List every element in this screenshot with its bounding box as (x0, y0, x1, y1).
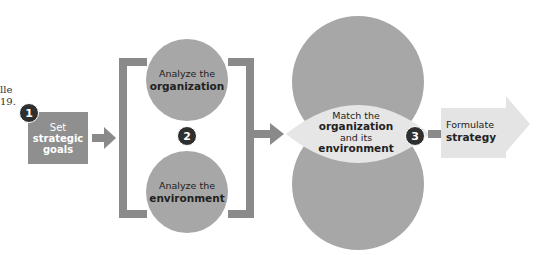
analyze-organization-circle: Analyze the organization (146, 39, 228, 121)
step1-line1: Set (28, 122, 88, 133)
step-set-goals: Set strategic goals (28, 112, 88, 164)
match-line2: organization (319, 120, 394, 132)
arrow-icon (92, 127, 116, 149)
step1-line2: strategic (28, 133, 88, 144)
formulate-line2: strategy (446, 131, 496, 143)
right-bracket (228, 58, 254, 218)
step3-badge: 3 (405, 126, 425, 146)
analyze-env-line1: Analyze the (159, 180, 215, 192)
analyze-env-line2: environment (149, 192, 224, 204)
match-line4: environment (318, 142, 393, 154)
match-text: Match the organization and its environme… (310, 110, 402, 154)
analyze-org-line2: organization (150, 80, 225, 92)
analyze-environment-circle: Analyze the environment (146, 151, 228, 233)
formulate-line1: Formulate (446, 119, 496, 131)
step1-badge: 1 (19, 103, 39, 123)
step2-badge: 2 (177, 126, 197, 146)
left-bracket (119, 58, 147, 218)
analyze-org-line1: Analyze the (159, 68, 215, 80)
formulate-text: Formulate strategy (446, 119, 496, 144)
arrow-icon (254, 123, 284, 145)
step1-line3: goals (28, 144, 88, 155)
